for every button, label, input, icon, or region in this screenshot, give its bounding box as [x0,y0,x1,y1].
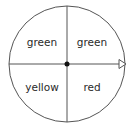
spinner-diagram: green green yellow red [0,0,129,127]
section-label-top-right: green [77,36,107,48]
spinner-center-pivot [65,62,70,67]
section-label-bottom-right: red [83,81,100,93]
section-label-top-left: green [27,36,57,48]
section-label-bottom-left: yellow [25,81,59,93]
